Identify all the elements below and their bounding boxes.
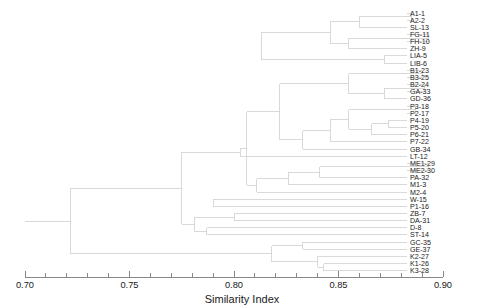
x-axis-tick-label: 0.90 — [434, 280, 452, 290]
x-axis: 0.700.750.800.850.90 — [16, 271, 452, 290]
x-axis-tick-label: 0.85 — [329, 280, 347, 290]
x-axis-tick-label: 0.80 — [225, 280, 243, 290]
x-axis-tick-label: 0.70 — [16, 280, 34, 290]
dendrogram-chart: 0.700.750.800.850.90 A1-1A2-2SL-13FG-11F… — [0, 0, 485, 308]
leaf-label-layer: A1-1A2-2SL-13FG-11FH-10ZH-9LIA-5LIB-6B1-… — [410, 10, 435, 276]
leaf-label: K3-28 — [410, 267, 429, 275]
dendrogram-tree-layer — [25, 13, 428, 271]
x-axis-title: Similarity Index — [205, 293, 280, 305]
x-axis-tick-label: 0.75 — [120, 280, 138, 290]
dendrogram-plot: 0.700.750.800.850.90 A1-1A2-2SL-13FG-11F… — [0, 0, 485, 308]
